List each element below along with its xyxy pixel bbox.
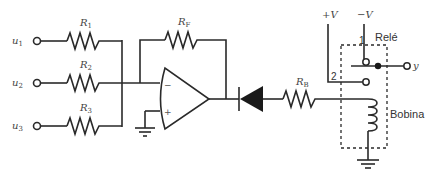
switch-pivot — [375, 63, 381, 69]
label-contact-1: 1 — [359, 35, 365, 46]
label-u3: u3 — [12, 120, 23, 133]
resistor-r2 — [67, 75, 122, 91]
label-y: y — [412, 60, 419, 71]
input-u3 — [34, 123, 68, 130]
diode-icon — [239, 86, 263, 112]
label-plus-v: +V — [322, 9, 339, 20]
label-relay: Relé — [375, 31, 398, 43]
input-u1 — [34, 38, 68, 45]
resistor-r3 — [67, 118, 122, 134]
circuit-diagram: u1 u2 u3 R1 R2 R3 RF − + — [0, 0, 441, 183]
opamp: − + — [161, 68, 210, 129]
opamp-plus: + — [164, 107, 172, 117]
label-r3: R3 — [79, 102, 92, 115]
label-minus-v: −V — [357, 9, 374, 20]
opamp-minus: − — [164, 80, 172, 90]
ground-icon — [357, 160, 379, 168]
label-rf: RF — [177, 16, 191, 29]
resistor-rb — [283, 91, 368, 107]
label-coil: Bobina — [390, 108, 425, 120]
contact-2 — [363, 79, 369, 85]
label-contact-2: 2 — [331, 71, 337, 82]
input-u2 — [34, 80, 68, 87]
label-r1: R1 — [79, 17, 92, 30]
contact-1 — [363, 59, 369, 65]
label-rb: RB — [295, 76, 309, 89]
resistor-r1 — [67, 33, 122, 49]
label-u1: u1 — [12, 35, 23, 48]
label-r2: R2 — [79, 59, 92, 72]
label-u2: u2 — [12, 77, 23, 90]
ground-icon — [135, 128, 155, 136]
output-terminal-y — [404, 63, 410, 69]
coil-icon — [368, 99, 377, 160]
